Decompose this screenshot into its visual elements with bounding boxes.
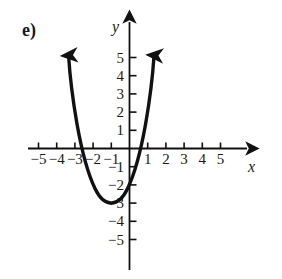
- y-tick-label--1: −1: [108, 159, 124, 175]
- x-tick-label-2: 2: [162, 151, 170, 167]
- part-label: e): [22, 20, 36, 41]
- x-tick-label--3: −3: [67, 151, 83, 167]
- y-tick-label--2: −2: [108, 177, 124, 193]
- y-tick-label-4: 4: [117, 68, 125, 84]
- x-tick-label-3: 3: [180, 151, 188, 167]
- figure-page: e) −5 −4 −3 −2 −1 1 2: [0, 0, 282, 279]
- y-tick-label--4: −4: [108, 213, 124, 229]
- x-tick-label--4: −4: [49, 151, 65, 167]
- y-tick-label--5: −5: [108, 232, 124, 248]
- y-axis: 5 4 3 2 1 −1 −2 −3 −4 −5 y: [108, 18, 136, 270]
- x-axis-label: x: [247, 158, 255, 175]
- y-tick-label-5: 5: [117, 50, 125, 66]
- parabola-left-branch: [69, 56, 112, 203]
- graph-figure: e) −5 −4 −3 −2 −1 1 2: [0, 0, 282, 279]
- x-tick-label-4: 4: [199, 151, 207, 167]
- y-axis-label: y: [110, 18, 120, 36]
- x-tick-label-5: 5: [217, 151, 225, 167]
- y-tick-label-3: 3: [117, 86, 125, 102]
- x-tick-label-1: 1: [144, 151, 152, 167]
- x-tick-label--5: −5: [31, 151, 47, 167]
- y-tick-label-1: 1: [117, 122, 125, 138]
- y-tick-label-2: 2: [117, 104, 125, 120]
